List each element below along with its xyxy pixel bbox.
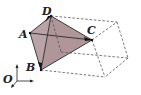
box-edge xyxy=(117,22,128,58)
axis-right-arrow-icon xyxy=(30,80,34,83)
axis-up-arrow-icon xyxy=(16,64,19,68)
label-A: A xyxy=(18,28,28,41)
box-edge xyxy=(61,52,128,58)
point-A xyxy=(29,32,31,34)
box-edge xyxy=(92,40,105,77)
box-edge xyxy=(105,58,128,77)
box-edge xyxy=(41,70,105,77)
diagram-canvas: D A C B O xyxy=(0,0,141,95)
point-C xyxy=(91,39,93,41)
label-C: C xyxy=(87,24,96,37)
point-B xyxy=(40,69,42,71)
label-B: B xyxy=(25,61,35,74)
label-D: D xyxy=(41,5,52,18)
label-O: O xyxy=(3,73,13,86)
box-edge xyxy=(51,16,117,22)
